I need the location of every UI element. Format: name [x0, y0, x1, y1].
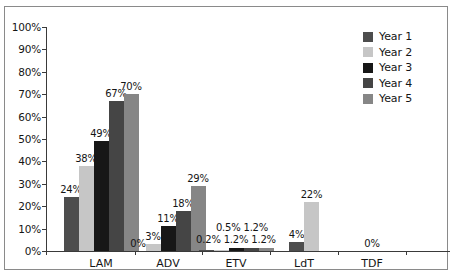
bar-value-label: 0%	[130, 238, 145, 249]
bar-rect	[109, 101, 124, 251]
bar-rect	[146, 244, 161, 251]
bar-ldt-year-2[interactable]: 22%	[304, 27, 319, 251]
y-tick-label: 20%	[18, 200, 41, 212]
y-tick-label: 70%	[18, 88, 41, 100]
x-tick-mark	[135, 251, 136, 255]
x-tick-mark	[406, 251, 407, 255]
bar-lam-year-3[interactable]: 49%	[94, 27, 109, 251]
y-tick-mark	[42, 72, 46, 73]
etv-value-labels-upper: 0.5% 1.2%	[216, 222, 268, 233]
bar-group-ldt: 4%22%	[289, 27, 319, 251]
bar-rect	[161, 226, 176, 251]
bar-tdf-year-1[interactable]: 0%	[365, 27, 380, 251]
legend-label: Year 2	[379, 46, 412, 59]
bar-etv-year-3[interactable]	[229, 27, 244, 251]
y-tick-mark	[42, 139, 46, 140]
bar-adv-year-1[interactable]: 0%	[131, 27, 146, 251]
y-tick-mark	[42, 161, 46, 162]
bar-rect	[94, 141, 109, 251]
etv-value-labels-lower: 0.2% 1.2% 1.2%	[196, 234, 276, 245]
bar-lam-year-1[interactable]: 24%	[64, 27, 79, 251]
bar-rect	[199, 250, 214, 252]
y-axis: 100%90%80%70%60%50%40%30%20%10%0%	[5, 7, 41, 279]
y-tick-mark	[42, 49, 46, 50]
bar-ldt-year-1[interactable]: 4%	[289, 27, 304, 251]
bar-etv-year-1[interactable]	[199, 27, 214, 251]
y-tick-mark	[42, 206, 46, 207]
chart-frame: 100%90%80%70%60%50%40%30%20%10%0% Year 1…	[4, 6, 448, 270]
x-tick-mark	[270, 251, 271, 255]
y-tick-label: 60%	[18, 111, 41, 123]
y-axis-line	[46, 27, 47, 252]
y-tick-label: 90%	[18, 43, 41, 55]
bar-group-etv	[199, 27, 274, 251]
bar-rect	[289, 242, 304, 251]
bar-rect	[64, 197, 79, 251]
bar-rect	[176, 211, 191, 251]
x-tick-mark	[338, 251, 339, 255]
y-tick-mark	[42, 229, 46, 230]
y-tick-mark	[42, 27, 46, 28]
y-tick-label: 50%	[18, 133, 41, 145]
x-category-adv: ADV	[156, 257, 179, 270]
x-category-etv: ETV	[225, 257, 246, 270]
bar-rect	[214, 250, 229, 252]
bar-rect	[304, 202, 319, 251]
bar-etv-year-4[interactable]	[244, 27, 259, 251]
bar-value-label: 0%	[364, 238, 379, 249]
legend-label: Year 3	[379, 61, 412, 74]
bar-adv-year-3[interactable]: 11%	[161, 27, 176, 251]
x-category-ldt: LdT	[294, 257, 314, 270]
legend-label: Year 5	[379, 92, 412, 105]
y-tick-label: 10%	[18, 223, 41, 235]
y-tick-mark	[42, 94, 46, 95]
x-tick-mark	[202, 251, 203, 255]
bar-value-label: 22%	[301, 189, 323, 200]
bar-etv-year-2[interactable]	[214, 27, 229, 251]
y-tick-label: 0%	[25, 245, 41, 257]
x-axis-line	[46, 251, 450, 252]
y-tick-label: 80%	[18, 66, 41, 78]
y-tick-label: 30%	[18, 178, 41, 190]
bar-group-lam: 24%38%49%67%70%	[64, 27, 139, 251]
x-tick-mark	[46, 251, 47, 255]
x-category-tdf: TDF	[361, 257, 383, 270]
legend-label: Year 4	[379, 77, 412, 90]
bar-group-adv: 0%3%11%18%29%	[131, 27, 206, 251]
bar-group-tdf: 0%	[365, 27, 380, 251]
bar-lam-year-4[interactable]: 67%	[109, 27, 124, 251]
bar-rect	[244, 248, 259, 251]
y-tick-label: 40%	[18, 155, 41, 167]
bar-adv-year-4[interactable]: 18%	[176, 27, 191, 251]
bar-etv-year-5[interactable]	[259, 27, 274, 251]
x-category-lam: LAM	[89, 257, 112, 270]
bar-value-label: 3%	[145, 231, 160, 242]
y-tick-mark	[42, 184, 46, 185]
bar-rect	[259, 248, 274, 251]
bar-value-label: 4%	[289, 229, 304, 240]
bar-rect	[229, 248, 244, 251]
y-tick-label: 100%	[12, 21, 41, 33]
legend-label: Year 1	[379, 30, 412, 43]
bar-rect	[79, 166, 94, 251]
y-tick-mark	[42, 117, 46, 118]
